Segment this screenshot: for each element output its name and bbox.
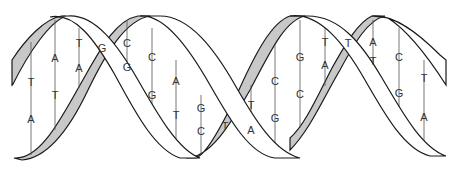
base-label: C [148,51,156,63]
base-label: C [123,37,131,49]
base-label: A [51,52,59,64]
base-label: A [321,59,329,71]
front-ribbon-0 [12,85,18,91]
base-label: T [322,36,329,48]
base-label: T [173,109,180,121]
dna-double-helix-diagram: T A A T T A G C G C G A T G C T T A C G … [0,0,451,169]
base-label: G [395,87,404,99]
base-label: T [345,37,352,49]
base-label: T [421,72,428,84]
base-label: G [271,112,280,124]
base-label: A [420,111,428,123]
base-label: G [98,42,107,54]
base-label: G [197,102,206,114]
base-label: T [248,99,255,111]
base-label: A [75,62,83,74]
base-label: C [197,125,205,137]
base-label: G [123,61,132,73]
base-label: T [28,76,35,88]
front-ribbon-4 [372,16,446,85]
base-label: A [27,113,35,125]
base-label: C [271,75,279,87]
base-label: T [370,55,377,67]
base-label: G [296,51,305,63]
base-label: A [172,75,180,87]
base-label: T [222,120,229,132]
base-label: A [369,36,377,48]
base-label: T [76,37,83,49]
back-ribbon-1 [12,16,66,86]
base-label: A [247,124,255,136]
base-label: C [395,51,403,63]
base-label: C [296,88,304,100]
base-label: G [148,89,157,101]
front-ribbon-3 [290,16,446,156]
base-label: T [52,89,59,101]
